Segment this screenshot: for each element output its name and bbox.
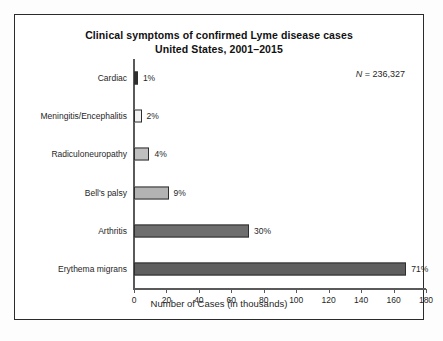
bar-value-label: 9% bbox=[174, 188, 186, 198]
x-tick bbox=[426, 289, 427, 293]
x-tick bbox=[231, 289, 232, 293]
x-tick bbox=[329, 289, 330, 293]
bar bbox=[134, 224, 249, 237]
chart-figure: Clinical symptoms of confirmed Lyme dise… bbox=[0, 0, 443, 341]
bar-row: Erythema migrans71% bbox=[134, 250, 426, 288]
category-label: Cardiac bbox=[98, 73, 127, 83]
chart-subtitle: United States, 2001–2015 bbox=[15, 42, 423, 56]
bar-value-label: 71% bbox=[411, 264, 428, 274]
x-tick bbox=[264, 289, 265, 293]
bar-row: Radiculoneuropathy4% bbox=[134, 135, 426, 173]
bar bbox=[134, 110, 142, 123]
bar bbox=[134, 148, 149, 161]
bar-row: Bell's palsy9% bbox=[134, 174, 426, 212]
plot-area: 020406080100120140160180 Cardiac1%Mening… bbox=[134, 59, 426, 288]
x-tick bbox=[361, 289, 362, 293]
category-label: Arthritis bbox=[98, 226, 127, 236]
bar-value-label: 4% bbox=[154, 149, 166, 159]
x-tick bbox=[166, 289, 167, 293]
bar bbox=[134, 72, 138, 85]
chart-title-block: Clinical symptoms of confirmed Lyme dise… bbox=[15, 28, 423, 56]
bar-row: Arthritis30% bbox=[134, 212, 426, 250]
x-tick bbox=[199, 289, 200, 293]
bar bbox=[134, 186, 169, 199]
bar-row: Cardiac1% bbox=[134, 59, 426, 97]
bar-row: Meningitis/Encephalitis2% bbox=[134, 97, 426, 135]
x-axis-title: Number of Cases (in thousands) bbox=[15, 298, 423, 309]
category-label: Radiculoneuropathy bbox=[51, 149, 127, 159]
x-tick bbox=[296, 289, 297, 293]
x-tick bbox=[394, 289, 395, 293]
chart-title: Clinical symptoms of confirmed Lyme dise… bbox=[15, 28, 423, 42]
x-axis-line bbox=[133, 288, 426, 290]
bar-value-label: 1% bbox=[143, 73, 155, 83]
bar-value-label: 30% bbox=[254, 226, 271, 236]
chart-frame: Clinical symptoms of confirmed Lyme dise… bbox=[14, 14, 424, 320]
category-label: Bell's palsy bbox=[85, 188, 127, 198]
category-label: Meningitis/Encephalitis bbox=[41, 111, 127, 121]
bar-value-label: 2% bbox=[147, 111, 159, 121]
category-label: Erythema migrans bbox=[58, 264, 127, 274]
bar bbox=[134, 262, 406, 275]
x-tick bbox=[134, 289, 135, 293]
